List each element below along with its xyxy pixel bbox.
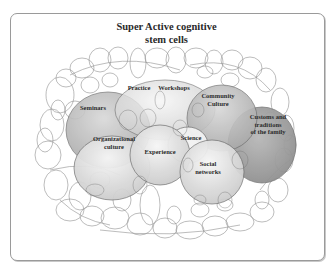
label-experience: Experience (144, 148, 175, 156)
label-community-culture: Community Culture (201, 92, 234, 107)
label-practice: Practice (128, 84, 151, 92)
label-workshops: Workshops (158, 84, 189, 92)
label-seminars: Seminars (80, 104, 106, 112)
label-social-networks: Social networks (195, 160, 221, 175)
label-science: Science (181, 134, 202, 142)
label-customs-traditions: Customs and traditions of the family (250, 113, 286, 136)
label-organizational-culture: Organizational culture (93, 135, 135, 150)
